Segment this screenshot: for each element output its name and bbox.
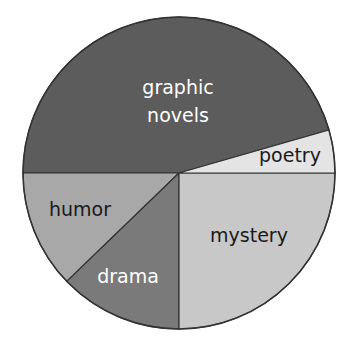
pie-slices — [23, 17, 335, 329]
slice-label-mystery: mystery — [210, 224, 288, 246]
pie-chart: graphicnovelshumordramamysterypoetry — [0, 0, 363, 352]
slice-mystery — [179, 173, 335, 329]
slice-label-poetry: poetry — [259, 144, 321, 166]
slice-label-drama: drama — [97, 265, 159, 287]
slice-label-humor: humor — [49, 198, 111, 220]
